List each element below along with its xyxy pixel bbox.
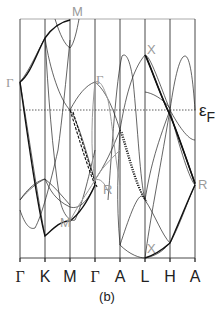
label-x-bottom: X	[147, 242, 156, 255]
tick-marks	[20, 258, 195, 262]
label-gamma-gray: Γ	[96, 73, 104, 86]
fermi-epsilon: ε	[199, 101, 207, 120]
label-r-right: R	[198, 178, 207, 191]
tick-label-gamma-1: Γ	[15, 269, 24, 285]
tick-label-m: M	[63, 269, 76, 285]
label-m-top: M	[72, 5, 83, 18]
tick-label-a-1: A	[115, 269, 126, 285]
thin-bands	[20, 19, 195, 258]
tick-label-h: H	[164, 269, 176, 285]
tick-label-a-2: A	[190, 269, 201, 285]
label-x-top: X	[147, 43, 156, 56]
tick-label-l: L	[141, 269, 150, 285]
label-m-bottom: M	[60, 216, 71, 229]
tick-label-gamma-2: Γ	[90, 269, 99, 285]
label-gamma-left: Γ	[6, 76, 14, 89]
fermi-level-label: εF	[199, 102, 215, 124]
tick-label-k: K	[40, 269, 51, 285]
band-structure-diagram	[0, 0, 222, 312]
label-r-mid: R	[103, 183, 112, 196]
fermi-subscript: F	[207, 109, 216, 125]
figure-caption: (b)	[99, 290, 115, 303]
